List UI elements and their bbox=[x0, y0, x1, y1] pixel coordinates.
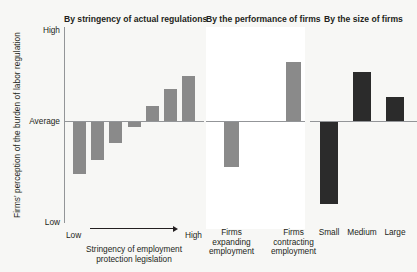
y-axis-title: Firms' perception of the burden of labor… bbox=[12, 5, 22, 245]
bar bbox=[224, 121, 239, 167]
category-label: Small bbox=[312, 228, 346, 238]
chart-root: Firms' perception of the burden of labor… bbox=[0, 0, 417, 272]
bar bbox=[164, 89, 177, 121]
bar bbox=[320, 121, 338, 204]
category-label: Large bbox=[378, 228, 412, 238]
y-tick-high: High bbox=[43, 25, 60, 35]
bar bbox=[182, 76, 195, 121]
y-tick-low: Low bbox=[45, 217, 60, 227]
x-axis-caption: Stringency of employmentprotection legis… bbox=[58, 244, 210, 264]
x-axis-caption-line: Stringency of employment bbox=[58, 244, 210, 254]
category-label-line: Medium bbox=[345, 228, 379, 238]
bar bbox=[353, 72, 371, 121]
bar bbox=[91, 121, 104, 160]
panel-performance: By the performance of firms Firmsexpandi… bbox=[206, 0, 305, 272]
category-label-line: employment bbox=[209, 247, 255, 257]
plot-area-stringency bbox=[64, 0, 204, 272]
zero-line-panel-1 bbox=[206, 121, 305, 122]
plot-area-performance: FirmsexpandingemploymentFirmscontracting… bbox=[206, 0, 305, 272]
zero-line-panel-2 bbox=[310, 121, 417, 122]
x-axis-caption-line: protection legislation bbox=[58, 254, 210, 264]
category-label-line: Small bbox=[312, 228, 346, 238]
bar bbox=[73, 121, 86, 174]
category-label: Medium bbox=[345, 228, 379, 238]
bar bbox=[286, 62, 301, 121]
x-axis-start-label: Low bbox=[66, 230, 81, 240]
y-tick-average: Average bbox=[29, 116, 60, 126]
stringency-arrow-line bbox=[90, 228, 174, 229]
zero-line-panel-0 bbox=[64, 121, 204, 122]
stringency-arrow-head bbox=[173, 226, 178, 232]
bar bbox=[146, 106, 159, 121]
panel-stringency: By stringency of actual regulations Low … bbox=[64, 0, 204, 272]
panel-size: By the size of firms SmallMediumLarge bbox=[310, 0, 417, 272]
bar bbox=[386, 97, 404, 121]
bar bbox=[109, 121, 122, 143]
category-label-line: Large bbox=[378, 228, 412, 238]
plot-area-size: SmallMediumLarge bbox=[310, 0, 417, 272]
category-label: Firmsexpandingemployment bbox=[209, 228, 255, 257]
x-axis-end-label: High bbox=[185, 230, 202, 240]
